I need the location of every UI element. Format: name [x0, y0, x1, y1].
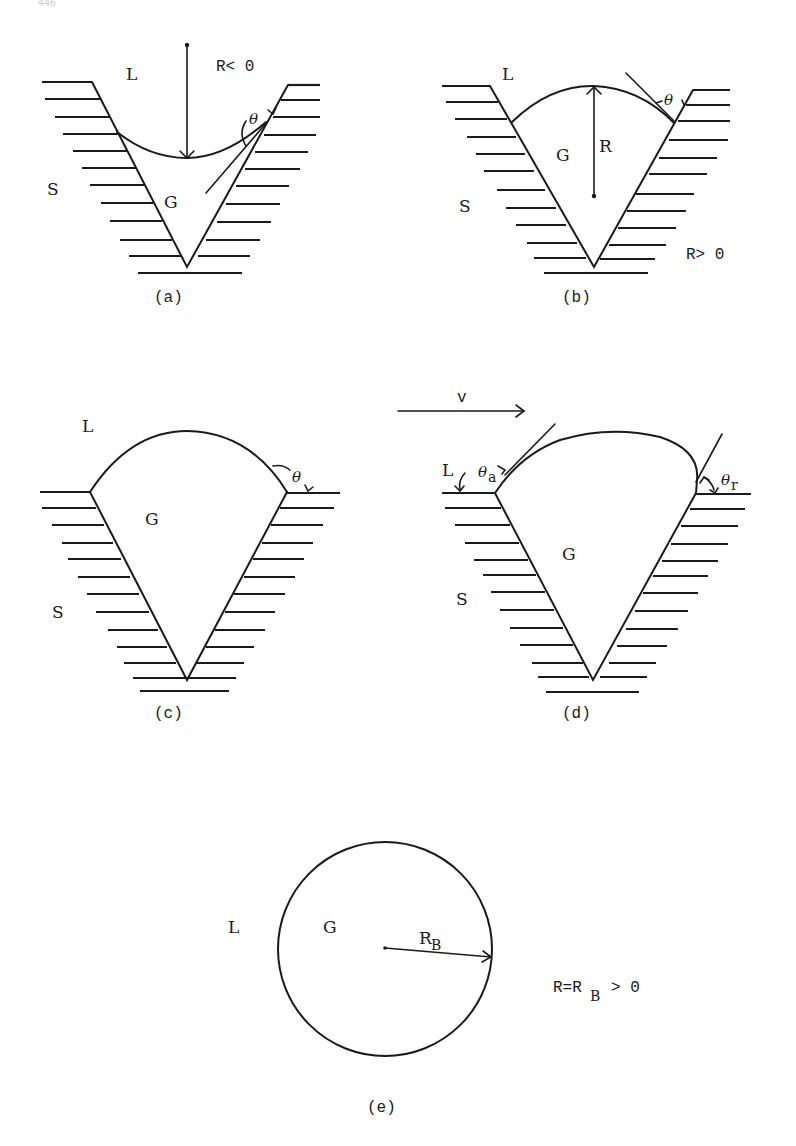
center-point — [383, 946, 387, 950]
angle-arrow-icon — [656, 101, 662, 103]
advancing-tangent — [505, 424, 555, 475]
solid-hatching — [40, 492, 340, 691]
gas-label: G — [164, 192, 178, 212]
panel-d: v — [398, 389, 751, 723]
radius-label: R — [599, 136, 613, 156]
angle-arrow-icon — [700, 477, 709, 483]
angle-label: θ — [664, 91, 673, 109]
liquid-label: L — [502, 64, 513, 84]
angle-arrow-icon — [682, 100, 684, 105]
solid-label: S — [456, 589, 468, 609]
liquid-label: L — [82, 416, 93, 436]
radius-condition-suffix: > 0 — [611, 979, 640, 997]
tangent-line — [206, 121, 268, 193]
angle-label: θ — [292, 468, 301, 486]
solid-hatching — [42, 82, 320, 273]
radius-condition-subscript: B — [590, 988, 600, 1004]
convex-meniscus — [90, 431, 287, 492]
radius-subscript: B — [431, 937, 441, 953]
radius-condition: R< 0 — [216, 58, 254, 76]
gas-label: G — [562, 544, 576, 564]
deformed-meniscus — [495, 432, 697, 493]
angle-arc — [704, 477, 714, 490]
caption: (d) — [562, 705, 591, 723]
advancing-angle-subscript: a — [488, 469, 496, 485]
angle-arrow-icon — [305, 485, 313, 491]
panel-e: L G R B R=R B > 0 (e) — [228, 842, 640, 1117]
v-groove-wall — [495, 493, 696, 680]
page-number: 446 — [38, 0, 56, 8]
liquid-label: L — [442, 460, 453, 480]
gas-label: G — [323, 917, 337, 937]
panel-a: L R< 0 θ S G (a) — [42, 43, 320, 307]
angle-label: θ — [249, 110, 258, 128]
radius-condition: R> 0 — [686, 246, 724, 264]
gas-label: G — [145, 509, 159, 529]
angle-arrow-icon — [268, 108, 276, 114]
caption: (e) — [367, 1099, 396, 1117]
liquid-label: L — [228, 917, 239, 937]
panel-b: L θ G R S R> 0 (b) — [442, 64, 730, 307]
convex-meniscus — [512, 86, 674, 123]
caption: (b) — [562, 289, 591, 307]
advancing-angle-symbol: θ — [478, 463, 487, 481]
angle-arrow-icon — [498, 466, 505, 474]
center-point — [185, 43, 189, 47]
gas-label: G — [556, 145, 570, 165]
solid-label: S — [459, 196, 471, 216]
solid-hatching — [442, 493, 751, 692]
liquid-label: L — [126, 64, 137, 84]
solid-label: S — [47, 179, 59, 199]
receding-angle-symbol: θ — [721, 471, 730, 489]
solid-label: S — [52, 602, 64, 622]
solid-hatching — [442, 86, 730, 273]
caption: (c) — [154, 705, 183, 723]
figure-canvas: 446 — [0, 0, 796, 1146]
receding-tangent — [696, 434, 722, 482]
v-groove-wall — [90, 492, 287, 680]
panel-c: L θ G S (c) — [40, 416, 340, 723]
center-point — [592, 194, 596, 198]
angle-arc — [242, 121, 246, 146]
velocity-label: v — [457, 389, 467, 407]
caption: (a) — [154, 289, 183, 307]
radius-condition-prefix: R=R — [553, 979, 582, 997]
angle-arc — [273, 466, 290, 471]
receding-angle-subscript: r — [731, 477, 738, 493]
